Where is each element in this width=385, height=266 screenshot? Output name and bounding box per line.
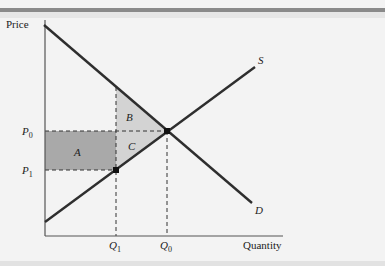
demand-curve	[44, 25, 252, 203]
region-c-label: C	[128, 140, 136, 152]
q1-label: Q1	[109, 239, 121, 254]
equilibrium-point	[164, 128, 170, 134]
quota-point	[113, 167, 119, 173]
demand-label: D	[254, 204, 263, 216]
q0-label: Q0	[160, 239, 172, 254]
region-a-label: A	[73, 146, 81, 158]
supply-demand-diagram: Price Quantity S D B C A P0 P1 Q1 Q0	[0, 0, 385, 266]
p0-label: P0	[21, 125, 33, 140]
x-axis-label: Quantity	[243, 239, 282, 251]
y-axis-label: Price	[6, 18, 29, 30]
region-b-label: B	[126, 111, 133, 123]
p1-label: P1	[21, 164, 33, 179]
supply-label: S	[258, 54, 264, 66]
